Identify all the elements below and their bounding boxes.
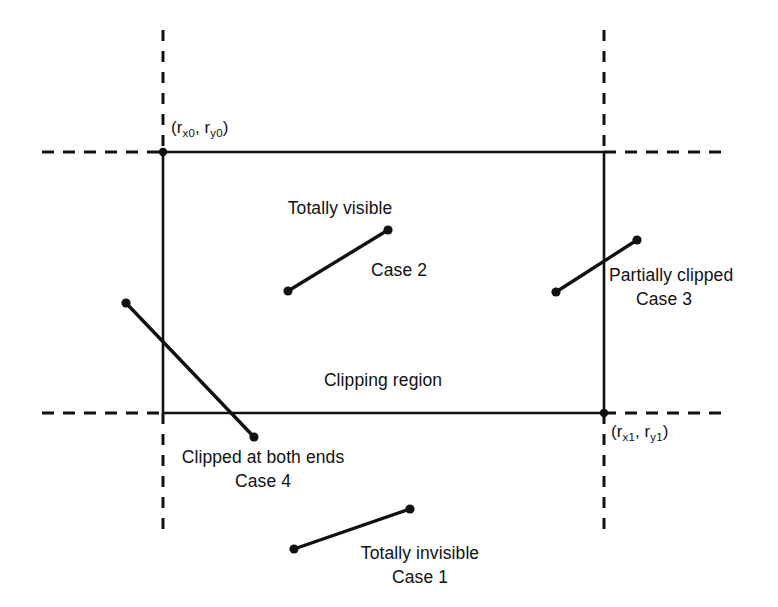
case-4-name-label: Case 4	[235, 470, 291, 492]
corner-label-bottom-right-open: (r	[611, 422, 623, 441]
case-4-description-label: Clipped at both ends	[182, 446, 345, 468]
clipping-diagram: (rx0, ry0) (rx1, ry1) Clipping region To…	[0, 0, 778, 607]
corner-label-bottom-right-close: )	[663, 422, 669, 441]
segment-case-3-endpoint-end	[632, 235, 641, 244]
corner-dot-bottom-right	[600, 409, 608, 417]
corner-dot-top-left	[159, 148, 167, 156]
segment-case-4-endpoint-start	[121, 298, 130, 307]
corner-label-top-left-open: (r	[171, 118, 183, 137]
corner-label-top-left-sub-y: y0	[210, 127, 222, 139]
corner-label-top-left-sub-x: x0	[183, 127, 195, 139]
segment-case-4	[121, 298, 258, 441]
corner-label-bottom-right-sub-x: x1	[623, 431, 635, 443]
corner-label-top-left-mid: , r	[195, 118, 210, 137]
segment-case-4-endpoint-end	[249, 432, 258, 441]
case-2-name-label: Case 2	[371, 259, 427, 281]
corner-label-bottom-right: (rx1, ry1)	[611, 421, 668, 443]
corner-label-bottom-right-mid: , r	[635, 422, 650, 441]
corner-label-top-left: (rx0, ry0)	[171, 117, 228, 139]
corner-label-bottom-right-sub-y: y1	[650, 431, 662, 443]
clipping-region-label: Clipping region	[324, 369, 442, 391]
case-1-name-label: Case 1	[392, 566, 448, 588]
corner-label-top-left-close: )	[223, 118, 229, 137]
case-1-description-label: Totally invisible	[361, 542, 479, 564]
segment-case-1-endpoint-end	[405, 504, 414, 513]
segment-case-3-endpoint-start	[551, 287, 560, 296]
segment-case-4-line	[126, 303, 254, 437]
segment-case-2-endpoint-end	[383, 225, 392, 234]
case-3-name-label: Case 3	[636, 288, 692, 310]
case-3-description-label: Partially clipped	[609, 264, 733, 286]
segment-case-2-endpoint-start	[283, 286, 292, 295]
case-2-description-label: Totally visible	[288, 197, 393, 219]
segment-case-1-endpoint-start	[289, 544, 298, 553]
